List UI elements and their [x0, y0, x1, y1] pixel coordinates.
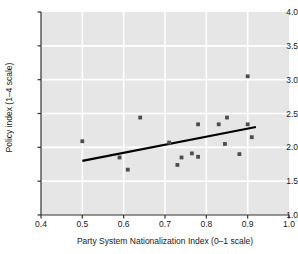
data-point-marker [196, 155, 200, 159]
data-point-marker [190, 152, 194, 156]
x-axis-tick-label: 0.7 [150, 219, 180, 229]
data-point-marker [225, 116, 229, 120]
data-point-marker [246, 74, 250, 78]
y-axis-tick-label: 2.0 [276, 143, 298, 152]
data-point-marker [138, 116, 142, 120]
data-point-marker [250, 135, 254, 139]
data-point-marker [223, 142, 227, 146]
scatter-chart-figure: Policy index (1–4 scale) Party System Na… [0, 0, 298, 254]
x-axis-tick-label: 0.9 [233, 219, 263, 229]
data-point-marker [176, 163, 180, 167]
y-axis-tick-label: 2.5 [276, 110, 298, 119]
x-axis-tick-label: 0.4 [26, 219, 56, 229]
y-axis-tick-label: 3.5 [276, 42, 298, 51]
x-axis-tick-label: 0.6 [109, 219, 139, 229]
data-point-marker [80, 139, 84, 143]
data-point-marker [196, 122, 200, 126]
data-point-marker [246, 122, 250, 126]
data-point-marker [217, 122, 221, 126]
y-axis-tick-label: 3.0 [276, 76, 298, 85]
x-axis-title: Party System Nationalization Index (0–1 … [41, 236, 289, 246]
data-point-marker [167, 141, 171, 145]
y-axis-tick-label: 4.0 [276, 8, 298, 17]
x-axis-tick-label: 0.8 [191, 219, 221, 229]
x-axis-tick-label: 1.0 [274, 219, 298, 229]
y-axis-title: Policy index (1–4 scale) [2, 0, 16, 215]
plot-canvas [0, 0, 298, 254]
data-point-marker [238, 152, 242, 156]
data-point-marker [180, 156, 184, 160]
data-point-marker [118, 156, 122, 160]
y-axis-tick-label: 1.5 [276, 177, 298, 186]
data-point-marker [126, 168, 130, 172]
x-axis-tick-label: 0.5 [67, 219, 97, 229]
